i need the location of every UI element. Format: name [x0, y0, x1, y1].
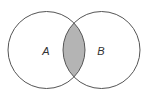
- set-b-label: B: [97, 45, 104, 57]
- set-a-label: A: [41, 45, 49, 57]
- venn-diagram: A B: [0, 0, 147, 95]
